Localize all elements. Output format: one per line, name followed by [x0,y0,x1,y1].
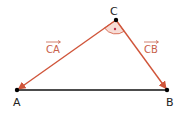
point-c [114,18,118,22]
svg-text:CA: CA [46,44,60,55]
diagram-svg: C A B CA CB [0,0,181,114]
label-b: B [166,96,174,109]
vector-label-cb: CB [144,41,159,56]
angle-dot-icon [114,28,116,30]
point-b [165,88,169,92]
point-a [15,88,19,92]
triangle-diagram: C A B CA CB [0,0,181,114]
label-c: C [110,5,118,18]
label-a: A [13,96,21,109]
vector-ca [19,20,117,89]
vector-cb [116,20,166,89]
vector-label-ca: CA [46,41,61,56]
svg-text:CB: CB [144,44,158,55]
